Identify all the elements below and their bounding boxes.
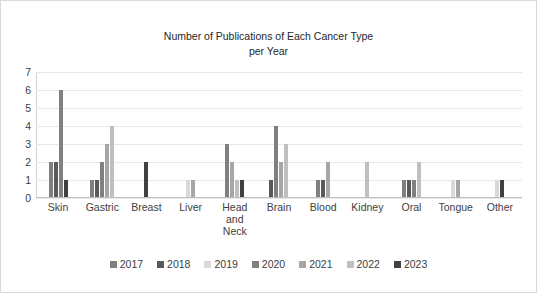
y-axis-tick-label: 1	[11, 175, 31, 186]
bar	[230, 162, 234, 198]
bar	[365, 162, 369, 198]
bar	[64, 180, 68, 198]
x-axis-tick-label: Blood	[301, 201, 345, 213]
bar	[326, 162, 330, 198]
chart-legend: 2017201820192020202120222023	[1, 259, 536, 270]
bar	[407, 180, 411, 198]
legend-label: 2017	[120, 259, 143, 270]
y-axis-tick-label: 5	[11, 103, 31, 114]
bar	[100, 162, 104, 198]
legend-swatch-icon	[347, 261, 354, 268]
bar-group	[478, 72, 522, 198]
bar	[417, 162, 421, 198]
y-axis-tick-label: 3	[11, 139, 31, 150]
bar	[144, 162, 148, 198]
plot-area	[36, 72, 522, 198]
x-axis-tick-label: Gastric	[80, 201, 124, 213]
gridline	[36, 198, 522, 199]
legend-label: 2019	[214, 259, 237, 270]
bar	[49, 162, 53, 198]
y-axis-tick-label: 7	[11, 67, 31, 78]
bar	[451, 180, 455, 198]
x-axis-line	[36, 197, 522, 198]
bar-group	[345, 72, 389, 198]
bar-group	[124, 72, 168, 198]
bar-group	[80, 72, 124, 198]
legend-item[interactable]: 2023	[394, 259, 427, 270]
legend-swatch-icon	[110, 261, 117, 268]
x-axis-tick-label: Tongue	[434, 201, 478, 213]
legend-item[interactable]: 2022	[347, 259, 380, 270]
bar	[235, 180, 239, 198]
bar	[105, 144, 109, 198]
legend-item[interactable]: 2018	[157, 259, 190, 270]
y-axis-tick-label: 0	[11, 193, 31, 204]
chart-title: Number of Publications of Each Cancer Ty…	[1, 29, 536, 59]
x-axis-tick-label: Kidney	[345, 201, 389, 213]
legend-swatch-icon	[204, 261, 211, 268]
bar	[110, 126, 114, 198]
bar	[95, 180, 99, 198]
y-axis-tick-labels: 01234567	[11, 72, 31, 198]
x-axis-tick-label: Skin	[36, 201, 80, 213]
bar	[240, 180, 244, 198]
bar	[186, 180, 190, 198]
legend-swatch-icon	[157, 261, 164, 268]
legend-label: 2021	[309, 259, 332, 270]
legend-swatch-icon	[299, 261, 306, 268]
bar-group	[213, 72, 257, 198]
bar	[456, 180, 460, 198]
bar-group	[389, 72, 433, 198]
chart-container: Number of Publications of Each Cancer Ty…	[0, 0, 537, 293]
bar	[284, 144, 288, 198]
x-axis-tick-label: Oral	[389, 201, 433, 213]
legend-label: 2023	[404, 259, 427, 270]
legend-label: 2018	[167, 259, 190, 270]
x-axis-category-labels: SkinGastricBreastLiverHead and NeckBrain…	[36, 201, 522, 247]
legend-item[interactable]: 2019	[204, 259, 237, 270]
bar	[191, 180, 195, 198]
bar	[495, 180, 499, 198]
bar	[412, 180, 416, 198]
legend-swatch-icon	[252, 261, 259, 268]
y-axis-tick-label: 4	[11, 121, 31, 132]
bar	[59, 90, 63, 198]
bar	[316, 180, 320, 198]
bar-group	[301, 72, 345, 198]
bar	[402, 180, 406, 198]
x-axis-tick-label: Breast	[124, 201, 168, 213]
y-axis-tick-label: 2	[11, 157, 31, 168]
bar	[500, 180, 504, 198]
bar-group	[434, 72, 478, 198]
legend-label: 2022	[357, 259, 380, 270]
y-axis-tick-label: 6	[11, 85, 31, 96]
bar	[274, 126, 278, 198]
bar	[321, 180, 325, 198]
bar	[54, 162, 58, 198]
bar	[279, 162, 283, 198]
bar-group	[257, 72, 301, 198]
legend-item[interactable]: 2020	[252, 259, 285, 270]
x-axis-tick-label: Head and Neck	[213, 201, 257, 237]
bar	[225, 144, 229, 198]
legend-swatch-icon	[394, 261, 401, 268]
bar	[269, 180, 273, 198]
bar-group	[36, 72, 80, 198]
x-axis-tick-label: Liver	[169, 201, 213, 213]
legend-item[interactable]: 2017	[110, 259, 143, 270]
legend-item[interactable]: 2021	[299, 259, 332, 270]
legend-label: 2020	[262, 259, 285, 270]
bar	[90, 180, 94, 198]
bar-group	[169, 72, 213, 198]
x-axis-tick-label: Other	[478, 201, 522, 213]
x-axis-tick-label: Brain	[257, 201, 301, 213]
